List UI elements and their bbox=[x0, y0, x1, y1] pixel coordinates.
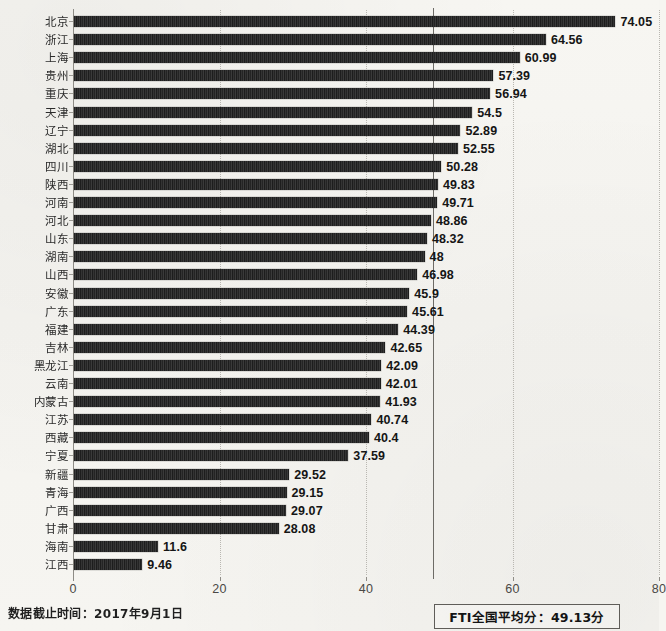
bar bbox=[74, 523, 279, 534]
bar-row: 湖北52.55 bbox=[0, 140, 659, 158]
category-label: 广东 bbox=[0, 304, 68, 320]
bar-row: 湖南48 bbox=[0, 248, 659, 266]
bar bbox=[74, 505, 286, 516]
x-axis-label-20: 20 bbox=[212, 582, 226, 596]
category-label: 四川 bbox=[0, 159, 68, 175]
bar bbox=[74, 233, 427, 244]
bar-value-label: 44.39 bbox=[403, 322, 435, 338]
y-axis-tick bbox=[69, 383, 73, 384]
category-label: 云南 bbox=[0, 376, 68, 392]
category-label: 北京 bbox=[0, 14, 68, 30]
bar bbox=[74, 432, 369, 443]
category-label: 新疆 bbox=[0, 467, 68, 483]
bar bbox=[74, 360, 381, 371]
category-label: 内蒙古 bbox=[0, 394, 68, 410]
bar-row: 云南42.01 bbox=[0, 375, 659, 393]
bar bbox=[74, 541, 158, 552]
bar-row: 重庆56.94 bbox=[0, 85, 659, 103]
bar bbox=[74, 179, 438, 190]
y-axis-tick bbox=[69, 564, 73, 565]
bar bbox=[74, 125, 460, 136]
category-label: 辽宁 bbox=[0, 123, 68, 139]
bar-value-label: 45.61 bbox=[412, 304, 444, 320]
y-axis-tick bbox=[69, 39, 73, 40]
bar-value-label: 37.59 bbox=[353, 448, 385, 464]
y-axis-tick bbox=[69, 166, 73, 167]
bar-row: 甘肃28.08 bbox=[0, 520, 659, 538]
bar bbox=[74, 70, 493, 81]
bar-row: 江苏40.74 bbox=[0, 411, 659, 429]
bar-row: 西藏40.4 bbox=[0, 429, 659, 447]
bar-row: 内蒙古41.93 bbox=[0, 393, 659, 411]
bar bbox=[74, 324, 398, 335]
bar-row: 四川50.28 bbox=[0, 158, 659, 176]
bar-value-label: 49.71 bbox=[442, 195, 474, 211]
bar-row: 天津54.5 bbox=[0, 104, 659, 122]
x-axis-tick-0 bbox=[73, 577, 74, 581]
category-label: 天津 bbox=[0, 105, 68, 121]
bar bbox=[74, 16, 615, 27]
x-axis-tick-80 bbox=[659, 577, 660, 581]
category-label: 海南 bbox=[0, 539, 68, 555]
y-axis-tick bbox=[69, 93, 73, 94]
bar-value-label: 48.32 bbox=[432, 231, 464, 247]
bar bbox=[74, 559, 142, 570]
bar bbox=[74, 487, 287, 498]
y-axis-tick bbox=[69, 455, 73, 456]
y-axis-tick bbox=[69, 21, 73, 22]
category-label: 黑龙江 bbox=[0, 358, 68, 374]
bar-row: 吉林42.65 bbox=[0, 339, 659, 357]
y-axis-tick bbox=[69, 256, 73, 257]
bar-row: 青海29.15 bbox=[0, 484, 659, 502]
y-axis-tick bbox=[69, 311, 73, 312]
average-legend-box: FTI全国平均分：49.13分 bbox=[434, 604, 620, 629]
x-axis-tick-40 bbox=[366, 577, 367, 581]
bar-row: 广东45.61 bbox=[0, 303, 659, 321]
x-axis-label-0: 0 bbox=[69, 582, 76, 596]
gridline-80 bbox=[659, 10, 660, 575]
category-label: 重庆 bbox=[0, 86, 68, 102]
bar bbox=[74, 52, 520, 63]
y-axis-tick bbox=[69, 220, 73, 221]
category-label: 江西 bbox=[0, 557, 68, 573]
bar-value-label: 29.15 bbox=[292, 485, 324, 501]
bar-value-label: 52.55 bbox=[463, 141, 495, 157]
bar-value-label: 48.86 bbox=[436, 213, 468, 229]
x-axis-tick-60 bbox=[513, 577, 514, 581]
y-axis-tick bbox=[69, 474, 73, 475]
bar-row: 山东48.32 bbox=[0, 230, 659, 248]
bar-row: 新疆29.52 bbox=[0, 466, 659, 484]
category-label: 吉林 bbox=[0, 340, 68, 356]
y-axis-tick bbox=[69, 130, 73, 131]
bar-row: 贵州57.39 bbox=[0, 67, 659, 85]
bar bbox=[74, 215, 431, 226]
bar-value-label: 9.46 bbox=[147, 557, 172, 573]
bar bbox=[74, 269, 417, 280]
bar-value-label: 48 bbox=[430, 249, 444, 265]
bar-row: 福建44.39 bbox=[0, 321, 659, 339]
bar bbox=[74, 306, 407, 317]
category-label: 湖北 bbox=[0, 141, 68, 157]
bar bbox=[74, 469, 289, 480]
bar-value-label: 49.83 bbox=[443, 177, 475, 193]
y-axis-tick bbox=[69, 148, 73, 149]
bar-value-label: 56.94 bbox=[495, 86, 527, 102]
category-label: 西藏 bbox=[0, 430, 68, 446]
bar-row: 浙江64.56 bbox=[0, 31, 659, 49]
y-axis-tick bbox=[69, 75, 73, 76]
bar-row: 辽宁52.89 bbox=[0, 122, 659, 140]
bar-value-label: 28.08 bbox=[284, 521, 316, 537]
bar-value-label: 54.5 bbox=[477, 105, 502, 121]
footnote: 数据截止时间：2017年9月1日 bbox=[8, 604, 183, 621]
bar-value-label: 29.07 bbox=[291, 503, 323, 519]
bar-row: 海南11.6 bbox=[0, 538, 659, 556]
y-axis-tick bbox=[69, 510, 73, 511]
bar bbox=[74, 251, 425, 262]
y-axis-tick bbox=[69, 401, 73, 402]
bar-value-label: 42.65 bbox=[390, 340, 422, 356]
bar-value-label: 45.9 bbox=[414, 286, 439, 302]
bar bbox=[74, 396, 380, 407]
bar-row: 广西29.07 bbox=[0, 502, 659, 520]
bar bbox=[74, 288, 409, 299]
